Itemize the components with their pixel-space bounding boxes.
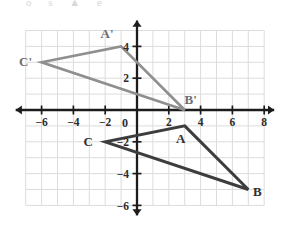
vertex-label-a-prime: A': [101, 26, 114, 41]
origin-label: 0: [122, 116, 128, 130]
y-axis-arrow-down: [132, 209, 141, 215]
y-axis-tick-label: 4: [123, 41, 129, 53]
vertex-label-b-prime: B': [185, 92, 197, 107]
y-axis-tick-label: −6: [117, 200, 130, 212]
x-axis-tick-label: 2: [166, 116, 172, 128]
faint-top-artifact-text: o s ▲ e: [26, 0, 109, 8]
vertex-label-a: A: [176, 131, 186, 146]
x-axis-arrow-left: [16, 105, 22, 114]
grid-lines: [26, 31, 265, 206]
x-axis-tick-label: −6: [35, 116, 48, 128]
y-axis-tick-label: −2: [117, 136, 130, 148]
x-axis-tick-label: 4: [198, 116, 204, 128]
vertex-labels: A'B'C'ABC: [19, 26, 262, 198]
x-axis-tick-label: 8: [261, 116, 267, 128]
x-axis-tick-label: −2: [99, 116, 112, 128]
vertex-label-b: B: [253, 184, 262, 199]
y-axis-tick-label: −4: [117, 168, 130, 180]
coordinate-plane-figure: o s ▲ e −6−4−2246842−2−4−60 A'B'C'ABC: [0, 0, 297, 231]
y-axis-tick-label: 2: [123, 72, 129, 84]
x-axis-tick-label: 6: [230, 116, 236, 128]
coordinate-plot-svg: −6−4−2246842−2−4−60 A'B'C'ABC: [0, 0, 297, 231]
x-axis-tick-label: −4: [67, 116, 80, 128]
y-axis-arrow-up: [132, 21, 141, 27]
x-axis-arrow-right: [268, 105, 274, 114]
vertex-label-c: C: [84, 134, 93, 149]
vertex-label-c-prime: C': [19, 54, 32, 69]
